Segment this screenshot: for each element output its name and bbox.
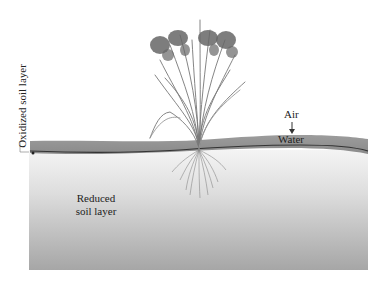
water-label: Water xyxy=(278,133,304,145)
layer-marker xyxy=(32,152,35,155)
air-label: Air xyxy=(284,108,299,120)
paddy-soil-diagram xyxy=(0,0,382,284)
rice-panicles xyxy=(150,30,238,61)
oxidized-soil-layer-label: Oxidized soil layer xyxy=(16,46,28,166)
reduced-soil-layer-label: Reduced soil layer xyxy=(68,192,124,218)
